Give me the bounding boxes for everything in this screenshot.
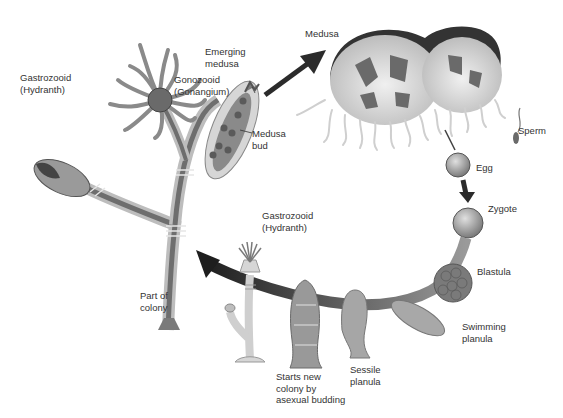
label-starts-new-colony: Starts new colony by asexual budding (276, 371, 345, 406)
label-gastrozooid-top: Gastrozooid (Hydranth) (20, 72, 71, 95)
label-part-of-colony: Part of colony (140, 290, 168, 313)
sessile-planula-icon (342, 290, 370, 358)
obelia-life-cycle-diagram: Gastrozooid (Hydranth) Gonozooid (Gonang… (0, 0, 563, 418)
young-gastrozooid-icon (225, 242, 265, 362)
label-zygote: Zygote (488, 203, 517, 215)
zygote-icon (453, 208, 483, 238)
label-swimming-planula: Swimming planula (462, 321, 506, 344)
label-blastula: Blastula (477, 266, 511, 278)
budding-colony-icon (290, 280, 322, 368)
arrow-to-medusa-icon (265, 62, 310, 95)
label-sessile-planula: Sessile planula (350, 364, 381, 387)
label-medusa-bud: Medusa bud (252, 128, 286, 151)
blastula-icon (434, 264, 472, 302)
egg-icon (446, 153, 470, 177)
medusa-icon (297, 27, 505, 150)
label-medusa: Medusa (305, 28, 339, 40)
label-gastrozooid-bottom: Gastrozooid (Hydranth) (262, 210, 313, 233)
label-sperm: Sperm (518, 125, 546, 137)
colony-icon (28, 100, 218, 330)
label-egg: Egg (476, 162, 493, 174)
label-emerging-medusa: Emerging medusa (205, 46, 246, 69)
diagram-artwork (0, 0, 563, 418)
label-gonozooid: Gonozooid (Gonangium) (174, 74, 229, 97)
